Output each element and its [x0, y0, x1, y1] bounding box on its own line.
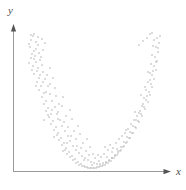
scatter-point — [44, 78, 45, 79]
scatter-point — [75, 162, 76, 163]
scatter-point — [55, 126, 56, 127]
scatter-point — [157, 51, 158, 52]
scatter-point — [147, 101, 148, 102]
scatter-point — [36, 70, 37, 71]
scatter-point — [33, 58, 34, 59]
scatter-point — [41, 64, 42, 65]
scatter-point — [142, 40, 143, 41]
y-axis-arrowhead — [11, 24, 16, 32]
axes-group — [11, 24, 171, 174]
scatter-point — [129, 131, 130, 132]
scatter-point — [54, 106, 55, 107]
scatter-point — [70, 135, 71, 136]
scatter-point — [149, 72, 150, 73]
scatter-point — [68, 151, 69, 152]
scatter-point — [49, 67, 50, 68]
scatter-point — [136, 115, 137, 116]
scatter-point — [125, 142, 126, 143]
scatter-point — [155, 61, 156, 62]
scatter-point — [57, 118, 58, 119]
scatter-point — [34, 55, 35, 56]
scatter-point — [28, 43, 29, 44]
scatter-point — [144, 86, 145, 87]
scatter-point — [115, 142, 116, 143]
scatter-point — [107, 149, 108, 150]
scatter-point — [56, 134, 57, 135]
scatter-point — [42, 71, 43, 72]
scatter-point — [78, 152, 79, 153]
scatter-point — [118, 138, 119, 139]
scatter-point — [107, 162, 108, 163]
scatter-point — [85, 150, 86, 151]
scatter-point — [37, 67, 38, 68]
scatter-point — [142, 103, 143, 104]
scatter-point — [41, 38, 42, 39]
scatter-point — [93, 162, 94, 163]
scatter-point — [156, 37, 157, 38]
scatter-point — [91, 164, 92, 165]
scatter-point — [155, 46, 156, 47]
scatter-point — [103, 153, 104, 154]
scatter-point — [32, 65, 33, 66]
scatter-point — [32, 35, 33, 36]
scatter-point — [82, 142, 83, 143]
scatter-point — [41, 96, 42, 97]
scatter-point — [36, 81, 37, 82]
scatter-point — [51, 109, 52, 110]
scatter-point — [74, 158, 75, 159]
scatter-point — [133, 119, 134, 120]
scatter-point — [109, 144, 110, 145]
scatter-point — [30, 57, 31, 58]
scatter-point — [108, 160, 109, 161]
scatter-point — [138, 44, 139, 45]
scatter-point — [80, 163, 81, 164]
scatter-point — [64, 149, 65, 150]
scatter-point — [153, 39, 154, 40]
scatter-point — [78, 164, 79, 165]
scatter-point — [54, 87, 55, 88]
scatter-point — [80, 147, 81, 148]
scatter-point — [43, 103, 44, 104]
scatter-point — [66, 142, 67, 143]
scatter-point — [40, 85, 41, 86]
scatter-point — [60, 137, 61, 138]
scatter-point — [79, 133, 80, 134]
scatter-point — [39, 74, 40, 75]
scatter-point — [73, 130, 74, 131]
scatter-point — [154, 56, 155, 57]
scatter-point — [150, 63, 151, 64]
scatter-point — [146, 37, 147, 38]
scatter-point — [149, 79, 150, 80]
scatter-point — [150, 83, 151, 84]
scatter-point — [69, 140, 70, 141]
scatter-point — [61, 144, 62, 145]
scatter-point — [134, 111, 135, 112]
scatter-point — [147, 71, 148, 72]
scatter-point — [100, 156, 101, 157]
scatter-point — [97, 154, 98, 155]
scatter-point — [116, 148, 117, 149]
scatter-point — [99, 163, 100, 164]
scatter-point — [67, 126, 68, 127]
scatter-point — [123, 141, 124, 142]
scatter-point — [140, 113, 141, 114]
scatter-point — [122, 146, 123, 147]
scatter-point — [157, 47, 158, 48]
scatter-point — [65, 115, 66, 116]
scatter-point — [102, 164, 103, 165]
scatter-point — [141, 105, 142, 106]
scatter-point — [116, 154, 117, 155]
scatter-point — [28, 62, 29, 63]
scatter-point — [37, 36, 38, 37]
scatter-point — [69, 109, 70, 110]
y-axis-label: y — [8, 5, 13, 16]
scatter-point — [135, 119, 136, 120]
scatter-point — [33, 73, 34, 74]
scatter-point — [42, 81, 43, 82]
scatter-point — [145, 89, 146, 90]
scatter-point — [87, 167, 88, 168]
scatter-point — [37, 44, 38, 45]
scatter-point — [64, 130, 65, 131]
scatter-point — [38, 77, 39, 78]
scatter-point — [88, 154, 89, 155]
